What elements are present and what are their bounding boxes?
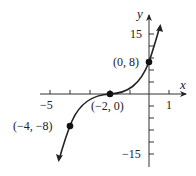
x-tick-label-neg5: −5 (40, 98, 53, 112)
y-tick-label-neg15: −15 (122, 147, 141, 161)
cubic-function-graph: x y −5 1 15 −15 (0, 8) (−2, 0) (−4, −8) (0, 0, 196, 176)
point-0-8 (146, 59, 153, 66)
point-label-0-8: (0, 8) (113, 55, 139, 69)
y-axis-label: y (135, 6, 143, 21)
point-label-neg4-neg8: (−4, −8) (13, 119, 53, 133)
cubic-curve (60, 28, 160, 140)
y-tick-label-15: 15 (130, 27, 142, 41)
curve-top-arrow-icon (156, 24, 163, 32)
point-neg2-0 (107, 91, 114, 98)
point-label-neg2-0: (−2, 0) (91, 99, 124, 113)
curve-bottom-arrow-icon (56, 154, 63, 162)
x-tick-label-1: 1 (166, 98, 172, 112)
x-axis-label: x (179, 77, 186, 92)
point-neg4-neg8 (67, 123, 74, 130)
